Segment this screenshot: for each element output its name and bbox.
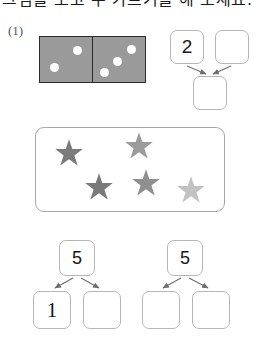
- bottom-right-bond-right-box[interactable]: [192, 291, 230, 329]
- domino-pip: [73, 46, 82, 55]
- star-icon: [84, 172, 114, 202]
- top-bond-right-box[interactable]: [215, 30, 249, 64]
- star-icon: [124, 131, 154, 161]
- bottom-right-bond-top-box[interactable]: 5: [167, 240, 203, 276]
- star-icon: [176, 175, 206, 205]
- domino-pip: [113, 57, 122, 66]
- domino-pip: [100, 68, 109, 77]
- arrow-bottom-right-bond-left: [163, 278, 181, 288]
- worksheet-page: 그림을 보고 수 가르기를 해 보세요. (1) 2: [0, 0, 272, 345]
- bottom-right-bond-left-box[interactable]: [142, 291, 180, 329]
- domino-pip: [127, 45, 136, 54]
- top-bond-result-box[interactable]: [193, 76, 227, 110]
- instruction-line: 그림을 보고 수 가르기를 해 보세요.: [0, 0, 272, 14]
- item-number-label: (1): [8, 23, 23, 39]
- arrow-bottom-left-bond-right: [81, 278, 99, 288]
- arrow-top-bond-left: [187, 66, 206, 74]
- star-icon: [54, 138, 84, 168]
- arrow-bottom-right-bond-right: [189, 278, 208, 288]
- bottom-left-bond-left-box[interactable]: 1: [33, 291, 71, 329]
- star-icon: [131, 168, 161, 198]
- domino-half-right: [93, 37, 146, 82]
- top-bond-left-box[interactable]: 2: [170, 30, 204, 64]
- arrow-top-bond-right: [213, 66, 231, 74]
- domino-half-left: [40, 37, 93, 82]
- bottom-left-bond-top-box[interactable]: 5: [59, 240, 95, 276]
- domino-tile: [39, 36, 146, 83]
- bottom-left-bond-right-box[interactable]: [83, 291, 121, 329]
- instruction-text: 그림을 보고 수 가르기를 해 보세요.: [2, 0, 253, 10]
- arrow-bottom-left-bond-left: [55, 278, 73, 288]
- domino-pip: [50, 63, 59, 72]
- star-panel: [35, 127, 225, 212]
